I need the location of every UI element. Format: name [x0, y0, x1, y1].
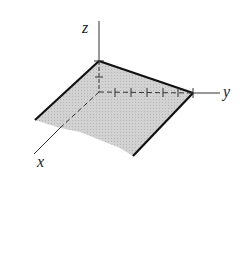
x-axis-label: x	[36, 153, 44, 170]
x-axis	[34, 128, 60, 154]
y-axis-label: y	[221, 83, 231, 101]
diagram-canvas: z y x	[0, 0, 251, 272]
shaded-plane	[35, 61, 193, 156]
z-axis-label: z	[81, 19, 89, 36]
